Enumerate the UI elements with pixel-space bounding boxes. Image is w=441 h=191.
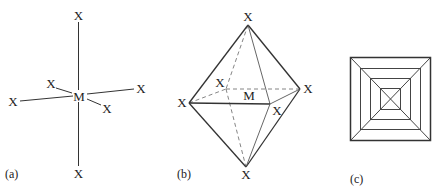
ligand-label-bottom: X bbox=[74, 166, 84, 181]
panel-b: X X X X X X M (b) bbox=[177, 9, 313, 182]
vertex-label-back: X bbox=[215, 75, 225, 90]
panel-b-caption: (b) bbox=[177, 167, 191, 181]
ligand-label-left: X bbox=[8, 94, 18, 109]
bond-left bbox=[20, 96, 73, 101]
vertex-label-left: X bbox=[177, 95, 187, 110]
panel-a-caption: (a) bbox=[5, 167, 18, 181]
octahedral-coordination-figure: X X X X X X M (a) X bbox=[0, 0, 441, 191]
edge-top-left bbox=[189, 25, 248, 103]
edge-left-front bbox=[189, 103, 270, 104]
ligand-label-back: X bbox=[46, 76, 56, 91]
hidden-edge-top-back bbox=[226, 25, 248, 89]
ligand-label-right: X bbox=[136, 81, 146, 96]
panel-a: X X X X X X M (a) bbox=[5, 8, 146, 181]
metal-label: M bbox=[243, 88, 255, 103]
bond-right bbox=[87, 89, 134, 94]
vertex-label-bottom: X bbox=[241, 167, 251, 182]
edge-left-bottom bbox=[189, 103, 246, 167]
bond-back-left bbox=[56, 88, 72, 93]
bond-front-right bbox=[87, 99, 101, 105]
edge-front-bottom bbox=[246, 104, 270, 167]
metal-label: M bbox=[73, 89, 85, 104]
vertex-label-top: X bbox=[243, 9, 253, 24]
panel-c-caption: (c) bbox=[350, 172, 363, 186]
vertex-label-front: X bbox=[272, 103, 282, 118]
ligand-label-front: X bbox=[102, 101, 112, 116]
panel-c: (c) bbox=[350, 58, 431, 187]
edge-top-right bbox=[248, 25, 300, 89]
ligand-label-top: X bbox=[74, 8, 84, 23]
vertex-label-right: X bbox=[303, 81, 313, 96]
